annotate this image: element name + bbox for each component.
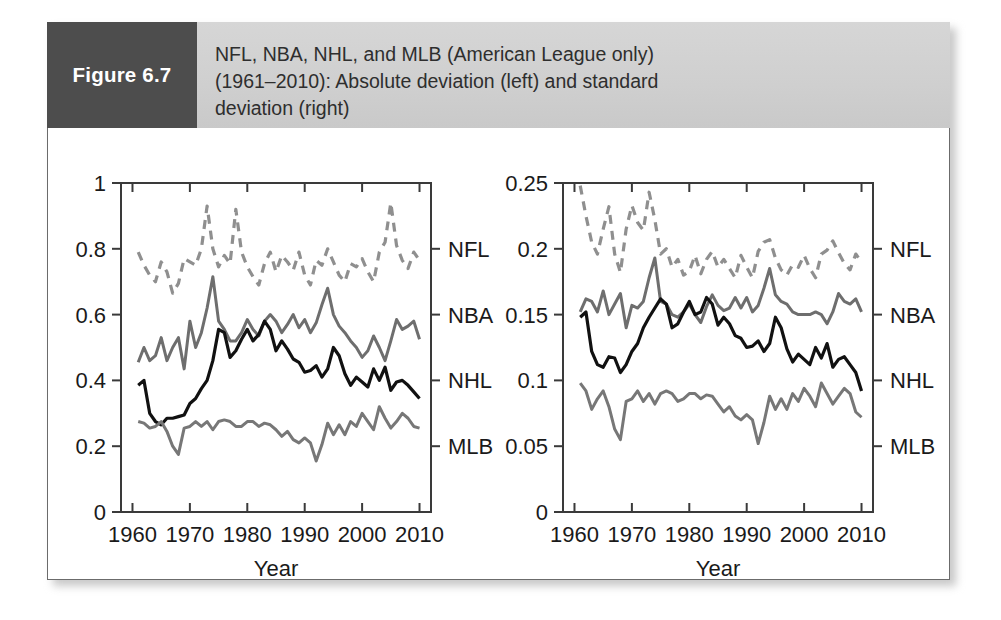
x-axis-title: Year xyxy=(254,556,298,578)
x-tick-label: 1970 xyxy=(607,522,656,547)
y-tick-label: 0.05 xyxy=(505,434,548,459)
x-tick-label: 1960 xyxy=(550,522,599,547)
charts-row: 00.20.40.60.81196019701980199020002010Ye… xyxy=(49,128,949,578)
y-tick-label: 0.4 xyxy=(75,368,106,393)
series-label-nhl: NHL xyxy=(448,368,492,393)
y-tick-label: 0.1 xyxy=(517,368,548,393)
y-tick-label: 0 xyxy=(536,500,548,525)
y-tick-label: 0.6 xyxy=(75,303,106,328)
x-tick-label: 1980 xyxy=(223,522,272,547)
series-line-nfl xyxy=(580,186,861,278)
y-tick-label: 0 xyxy=(94,500,106,525)
x-tick-label: 1980 xyxy=(665,522,714,547)
y-tick-label: 1 xyxy=(94,171,106,196)
series-line-nfl xyxy=(138,203,419,293)
x-tick-label: 1990 xyxy=(722,522,771,547)
x-tick-label: 2000 xyxy=(338,522,387,547)
x-tick-label: 2000 xyxy=(780,522,829,547)
y-tick-label: 0.25 xyxy=(505,171,548,196)
figure-caption-text: NFL, NBA, NHL, and MLB (American League … xyxy=(215,41,915,122)
x-axis-title: Year xyxy=(696,556,740,578)
y-tick-label: 0.8 xyxy=(75,237,106,262)
series-label-nba: NBA xyxy=(890,303,936,328)
figure-caption-band: Figure 6.7 NFL, NBA, NHL, and MLB (Ameri… xyxy=(47,22,950,128)
figure-container: Figure 6.7 NFL, NBA, NHL, and MLB (Ameri… xyxy=(47,22,950,580)
y-tick-label: 0.2 xyxy=(517,237,548,262)
x-tick-label: 2010 xyxy=(395,522,444,547)
x-tick-label: 1970 xyxy=(165,522,214,547)
series-label-mlb: MLB xyxy=(890,434,935,459)
y-tick-label: 0.2 xyxy=(75,434,106,459)
series-label-mlb: MLB xyxy=(448,434,493,459)
series-label-nhl: NHL xyxy=(890,368,934,393)
figure-number-label: Figure 6.7 xyxy=(73,63,172,87)
x-tick-label: 1960 xyxy=(108,522,157,547)
chart-absolute-deviation: 00.20.40.60.81196019701980199020002010Ye… xyxy=(75,171,493,578)
x-tick-label: 1990 xyxy=(280,522,329,547)
series-line-mlb xyxy=(580,383,861,444)
series-line-nba xyxy=(138,277,419,369)
series-label-nfl: NFL xyxy=(890,237,932,262)
figure-number-badge: Figure 6.7 xyxy=(47,22,197,128)
figure-plot-area: 00.20.40.60.81196019701980199020002010Ye… xyxy=(47,128,950,580)
y-tick-label: 0.15 xyxy=(505,303,548,328)
x-tick-label: 2010 xyxy=(837,522,886,547)
series-label-nba: NBA xyxy=(448,303,494,328)
chart-standard-deviation: 00.050.10.150.20.25196019701980199020002… xyxy=(505,171,935,578)
charts-svg: 00.20.40.60.81196019701980199020002010Ye… xyxy=(49,128,949,578)
series-label-nfl: NFL xyxy=(448,237,490,262)
